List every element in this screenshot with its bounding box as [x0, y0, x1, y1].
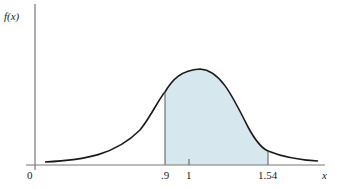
x-axis-label: x [321, 169, 327, 181]
origin-label: 0 [27, 169, 33, 181]
tick-label-1: 1 [186, 169, 192, 181]
y-axis-label: f(x) [4, 10, 20, 23]
shaded-region [165, 69, 268, 165]
normal-distribution-chart: f(x) 0 .9 1 1.54 x [0, 0, 342, 189]
tick-label-154: 1.54 [258, 169, 278, 181]
tick-label-09: .9 [161, 169, 170, 181]
